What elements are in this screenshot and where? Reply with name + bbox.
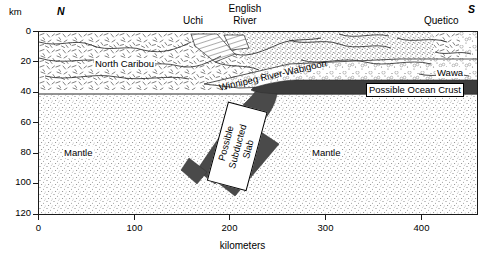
orientation-label-south: S	[468, 4, 475, 15]
terrane-header-english-river-line1: English	[215, 4, 275, 15]
x-axis-title: kilometers	[0, 240, 485, 251]
orientation-label-north: N	[57, 6, 65, 17]
y-tick-label-100: 100	[0, 176, 31, 187]
y-tick-label-0: 0	[3, 25, 31, 36]
terrane-header-quetico: Quetico	[424, 16, 458, 27]
map-label-north-caribou: North Caribou	[94, 58, 155, 69]
x-tick-mark-300	[325, 215, 326, 220]
map-label-mantle-right: Mantle	[311, 147, 342, 158]
y-tick-label-40: 40	[3, 85, 31, 96]
x-tick-mark-200	[229, 215, 230, 220]
x-tick-mark-100	[134, 215, 135, 220]
y-tick-label-20: 20	[3, 55, 31, 66]
map-label-mantle-left: Mantle	[63, 147, 94, 158]
terrane-header-uchi: Uchi	[183, 16, 203, 27]
x-tick-label-300: 300	[310, 222, 341, 233]
map-label-wawa: Wawa	[436, 67, 464, 78]
y-tick-label-120: 120	[0, 207, 31, 218]
terrane-header-english-river-line2: River	[215, 16, 275, 27]
y-tick-label-60: 60	[3, 116, 31, 127]
map-label-possible-ocean-crust: Possible Ocean Crust	[366, 83, 464, 97]
y-tick-label-80: 80	[3, 146, 31, 157]
x-tick-label-400: 400	[406, 222, 437, 233]
x-tick-mark-0	[38, 215, 39, 220]
x-tick-mark-400	[421, 215, 422, 220]
x-tick-label-0: 0	[23, 222, 54, 233]
x-tick-label-200: 200	[214, 222, 245, 233]
y-axis-unit-label: km	[9, 6, 22, 17]
cross-section-figure: N Uchi English River Quetico S km 0 20 4…	[0, 0, 485, 256]
x-tick-label-100: 100	[119, 222, 150, 233]
